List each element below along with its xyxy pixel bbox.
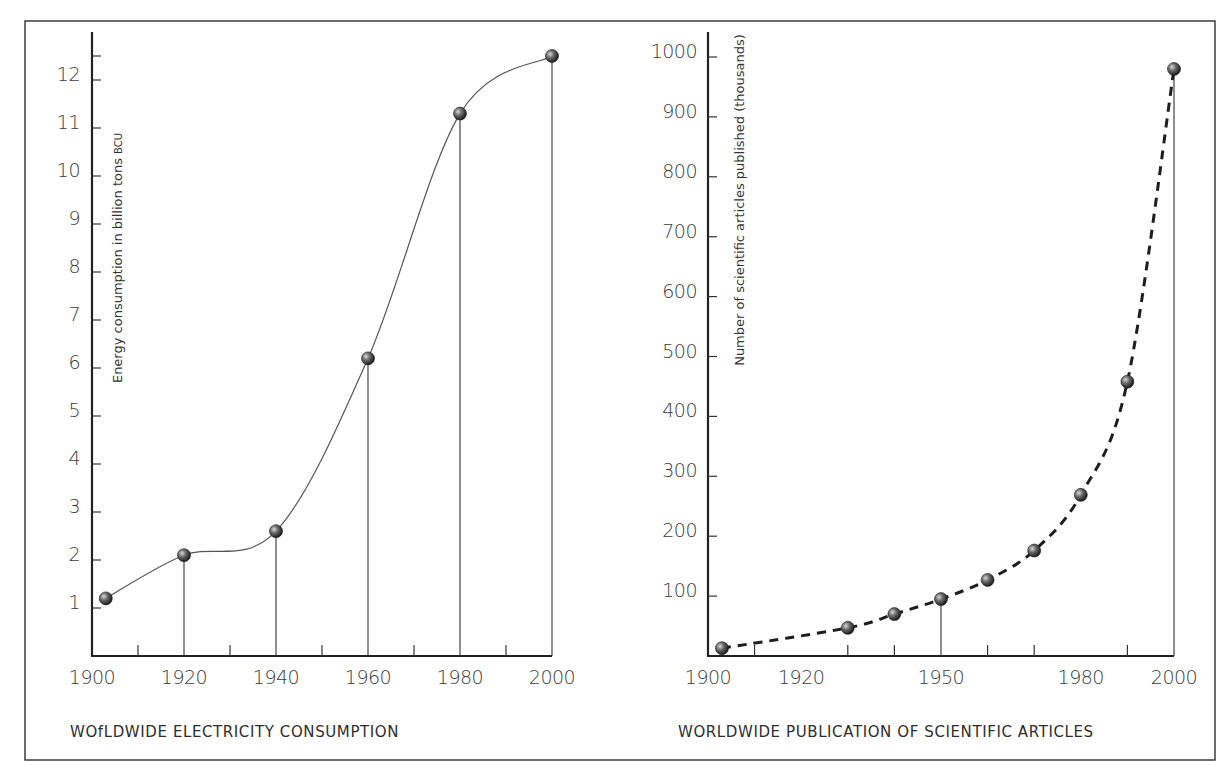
chart-caption: WOfLDWIDE ELECTRICITY CONSUMPTION xyxy=(70,723,399,741)
y-tick-label: 12 xyxy=(57,63,80,85)
x-tick-label: 2000 xyxy=(1151,666,1197,688)
x-tick-label: 1920 xyxy=(778,666,824,688)
y-axis-title: Number of scientific articles published … xyxy=(732,34,747,366)
y-tick-label: 11 xyxy=(57,111,80,133)
data-curve xyxy=(106,56,552,598)
y-tick-label: 500 xyxy=(662,340,697,362)
data-curve xyxy=(722,69,1174,648)
y-tick-label: 8 xyxy=(68,255,80,277)
y-tick-label: 900 xyxy=(662,100,697,122)
y-tick-label: 6 xyxy=(68,351,80,373)
data-point-marker xyxy=(1074,488,1087,501)
data-point-marker xyxy=(715,642,728,655)
x-tick-label: 1980 xyxy=(1058,666,1104,688)
x-tick-label: 1980 xyxy=(437,666,483,688)
y-axis-title: Energy consumption in billion tons BCU xyxy=(110,133,125,383)
y-tick-label: 100 xyxy=(662,579,697,601)
data-point-marker xyxy=(99,592,112,605)
data-point-marker xyxy=(981,573,994,586)
x-tick-label: 1940 xyxy=(253,666,299,688)
data-point-marker xyxy=(178,549,191,562)
y-tick-label: 7 xyxy=(68,303,80,325)
y-tick-label: 800 xyxy=(662,160,697,182)
data-point-marker xyxy=(888,608,901,621)
x-tick-label: 2000 xyxy=(529,666,575,688)
x-tick-label: 1950 xyxy=(918,666,964,688)
y-tick-label: 4 xyxy=(68,447,80,469)
y-tick-label: 3 xyxy=(68,495,80,517)
y-tick-label: 200 xyxy=(662,519,697,541)
data-point-marker xyxy=(362,352,375,365)
data-point-marker xyxy=(841,621,854,634)
data-point-marker xyxy=(1121,375,1134,388)
data-point-marker xyxy=(1028,544,1041,557)
y-tick-label: 600 xyxy=(662,280,697,302)
y-tick-label: 1 xyxy=(68,591,80,613)
x-tick-label: 1920 xyxy=(161,666,207,688)
y-tick-label: 700 xyxy=(662,220,697,242)
data-point-marker xyxy=(546,50,559,63)
scientific-articles-chart: 1002003004005006007008009001000190019201… xyxy=(651,32,1198,741)
y-tick-label: 1000 xyxy=(651,40,697,62)
electricity-consumption-chart: 123456789101112190019201940196019802000E… xyxy=(57,32,575,741)
chart-caption: WORLDWIDE PUBLICATION OF SCIENTIFIC ARTI… xyxy=(678,723,1094,741)
y-tick-label: 10 xyxy=(57,159,80,181)
data-point-marker xyxy=(1168,62,1181,75)
x-tick-label: 1900 xyxy=(685,666,731,688)
outer-border xyxy=(25,21,1215,760)
data-point-marker xyxy=(935,593,948,606)
y-tick-label: 2 xyxy=(68,543,80,565)
y-tick-label: 5 xyxy=(68,399,80,421)
figure: 123456789101112190019201940196019802000E… xyxy=(0,0,1229,779)
data-point-marker xyxy=(270,525,283,538)
data-point-marker xyxy=(454,107,467,120)
y-tick-label: 400 xyxy=(662,399,697,421)
x-tick-label: 1960 xyxy=(345,666,391,688)
y-tick-label: 9 xyxy=(68,207,80,229)
x-tick-label: 1900 xyxy=(69,666,115,688)
y-tick-label: 300 xyxy=(662,459,697,481)
